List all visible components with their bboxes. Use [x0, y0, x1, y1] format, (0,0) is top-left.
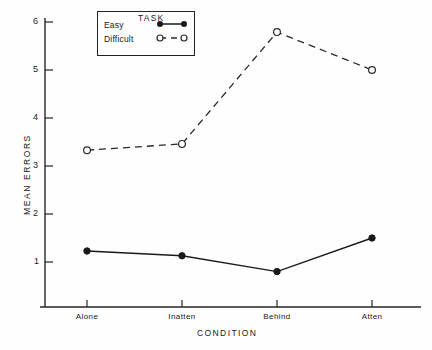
- legend-label-difficult: Difficult: [104, 34, 134, 44]
- series-markers-easy: [84, 235, 375, 275]
- x-axis-ticks: [87, 300, 372, 307]
- data-point-difficult-inatten: [179, 141, 186, 148]
- x-category-label-alone: Alone: [76, 312, 98, 321]
- data-point-difficult-behind: [274, 29, 281, 36]
- x-category-label-inatten: Inatten: [168, 312, 195, 321]
- x-category-label-behind: Behind: [263, 312, 290, 321]
- legend-label-easy: Easy: [104, 20, 124, 30]
- y-tick-label-5: 5: [33, 64, 38, 74]
- data-point-easy-inatten: [179, 253, 185, 259]
- y-tick-label-3: 3: [33, 160, 38, 170]
- x-axis-title: CONDITION: [197, 328, 257, 338]
- y-axis-title: MEAN ERRORS: [22, 134, 32, 215]
- y-tick-label-1: 1: [34, 256, 39, 266]
- y-tick-label-2: 2: [33, 208, 38, 218]
- data-point-difficult-atten: [369, 67, 376, 74]
- data-point-easy-atten: [369, 235, 375, 241]
- figure-chart-mean-errors: TASK Easy Difficult 6 5 4 3 2 1 MEAN ERR…: [0, 0, 432, 350]
- y-tick-label-6: 6: [33, 16, 38, 26]
- x-category-label-atten: Atten: [362, 312, 383, 321]
- data-point-easy-alone: [84, 248, 90, 254]
- data-point-difficult-alone: [84, 147, 91, 154]
- y-tick-label-4: 4: [33, 112, 38, 122]
- data-point-easy-behind: [274, 268, 280, 274]
- y-axis-ticks: [45, 22, 53, 262]
- series-line-easy: [87, 238, 372, 272]
- legend-title: TASK: [138, 13, 164, 23]
- plot-area: [0, 0, 432, 350]
